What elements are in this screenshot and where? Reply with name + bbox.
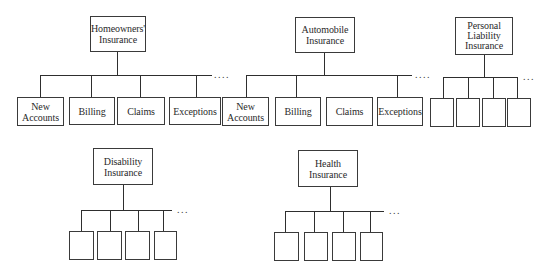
connector bbox=[91, 75, 92, 97]
connector bbox=[81, 210, 82, 231]
connector bbox=[468, 77, 469, 98]
disability-child-box bbox=[154, 231, 177, 260]
exceptions-label: Exceptions bbox=[378, 106, 421, 117]
health-stem bbox=[330, 187, 331, 211]
personal-liability-insurance-box: Personal Liability Insurance bbox=[455, 17, 513, 55]
health-insurance-box: Health Insurance bbox=[298, 150, 358, 187]
new-accounts-label: New Accounts bbox=[227, 101, 264, 123]
automobile-stem bbox=[324, 53, 325, 75]
personal-liability-child-box bbox=[482, 98, 506, 127]
automobile-insurance-label: Automobile Insurance bbox=[302, 24, 349, 46]
personal-liability-continuation-dots: ... bbox=[523, 73, 535, 81]
disability-branch-line bbox=[81, 210, 172, 211]
exceptions-label: Exceptions bbox=[173, 106, 216, 117]
disability-stem bbox=[123, 185, 124, 210]
health-child-box bbox=[274, 232, 299, 261]
disability-insurance-box: Disability Insurance bbox=[93, 148, 153, 185]
connector bbox=[140, 75, 141, 97]
connector bbox=[343, 211, 344, 232]
connector bbox=[517, 77, 518, 98]
automobile-exceptions-box: Exceptions bbox=[377, 97, 423, 126]
homeowners-continuation-dots: .... bbox=[214, 71, 230, 79]
connector bbox=[397, 75, 398, 97]
connector bbox=[493, 77, 494, 98]
connector bbox=[196, 75, 197, 97]
homeowners-billing-box: Billing bbox=[69, 97, 115, 125]
billing-label: Billing bbox=[78, 106, 105, 117]
automobile-claims-box: Claims bbox=[326, 97, 373, 126]
health-insurance-label: Health Insurance bbox=[309, 158, 347, 180]
disability-insurance-label: Disability Insurance bbox=[104, 156, 142, 178]
personal-liability-child-box bbox=[456, 98, 480, 127]
automobile-insurance-box: Automobile Insurance bbox=[295, 17, 355, 53]
personal-liability-stem bbox=[484, 55, 485, 77]
connector bbox=[443, 77, 444, 98]
billing-label: Billing bbox=[284, 106, 311, 117]
claims-label: Claims bbox=[127, 106, 155, 117]
homeowners-insurance-label: Homeowners' Insurance bbox=[91, 23, 145, 45]
connector bbox=[246, 75, 247, 97]
personal-liability-branch-line bbox=[443, 77, 518, 78]
health-continuation-dots: ... bbox=[389, 207, 401, 215]
homeowners-new-accounts-box: New Accounts bbox=[17, 97, 64, 126]
claims-label: Claims bbox=[336, 106, 364, 117]
automobile-continuation-dots: .... bbox=[415, 71, 431, 79]
connector bbox=[285, 211, 286, 232]
connector bbox=[296, 75, 297, 97]
new-accounts-label: New Accounts bbox=[22, 101, 59, 123]
connector bbox=[138, 210, 139, 231]
automobile-branch-line bbox=[246, 75, 412, 76]
health-child-box bbox=[360, 232, 383, 261]
disability-child-box bbox=[97, 231, 122, 260]
connector bbox=[110, 210, 111, 231]
automobile-billing-box: Billing bbox=[275, 97, 321, 126]
connector bbox=[163, 210, 164, 231]
personal-liability-child-box bbox=[430, 98, 454, 127]
connector bbox=[40, 75, 41, 97]
personal-liability-child-box bbox=[507, 98, 531, 127]
homeowners-claims-box: Claims bbox=[117, 97, 165, 125]
disability-child-box bbox=[125, 231, 150, 260]
health-child-box bbox=[332, 232, 356, 261]
automobile-new-accounts-box: New Accounts bbox=[222, 97, 269, 126]
health-child-box bbox=[304, 232, 328, 261]
homeowners-stem bbox=[117, 52, 118, 75]
disability-child-box bbox=[69, 231, 94, 260]
disability-continuation-dots: ... bbox=[177, 206, 189, 214]
connector bbox=[370, 211, 371, 232]
homeowners-exceptions-box: Exceptions bbox=[169, 97, 221, 125]
homeowners-branch-line bbox=[40, 75, 212, 76]
homeowners-insurance-box: Homeowners' Insurance bbox=[90, 16, 146, 52]
connector bbox=[314, 211, 315, 232]
personal-liability-insurance-label: Personal Liability Insurance bbox=[465, 21, 503, 51]
